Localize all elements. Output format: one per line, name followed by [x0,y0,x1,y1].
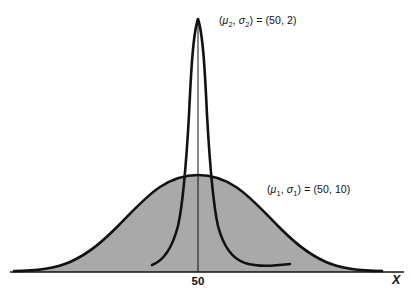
x-axis-label: X [392,273,400,287]
annotation-narrow-close-paren: ) = ( [250,14,269,26]
normal-distributions-plot [0,0,412,302]
distribution-figure: (μ2, σ2) = (50, 2) (μ1, σ1) = (50, 10) 5… [0,0,412,302]
annotation-wide-sd: 10 [335,183,347,195]
x-axis-tick-label-50: 50 [186,275,210,287]
annotation-wide-close-paren: ) = ( [298,183,317,195]
annotation-wide-mean: 50 [317,183,329,195]
annotation-narrow-mean: 50 [269,14,281,26]
annotation-narrow-distribution: (μ2, σ2) = (50, 2) [219,14,296,29]
annotation-narrow-end-paren: ) [293,14,297,26]
annotation-wide-end-paren: ) [347,183,351,195]
annotation-wide-distribution: (μ1, σ1) = (50, 10) [267,183,350,198]
